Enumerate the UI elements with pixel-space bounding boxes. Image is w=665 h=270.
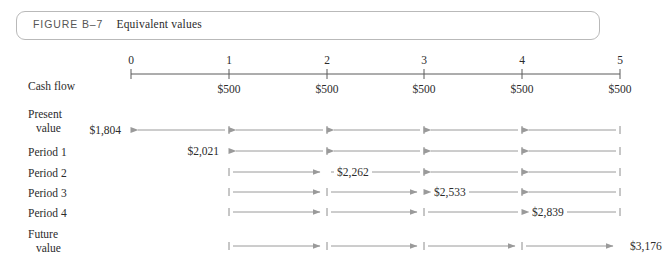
arrow-row-period-3 (229, 188, 620, 196)
arrow-row-future-value (229, 242, 613, 250)
cash-flow-value-period-3: $500 (413, 83, 436, 95)
axis-tick-label-3: 3 (421, 54, 427, 66)
value-label-period-4: $2,839 (529, 206, 567, 218)
row-label-period-4: Period 4 (28, 207, 67, 219)
value-label-future-value: $3,176 (627, 240, 665, 252)
row-label-cash-flow: Cash flow (28, 80, 75, 92)
cash-flow-value-period-1: $500 (218, 83, 241, 95)
value-label-period-1: $2,021 (184, 145, 222, 157)
row-label-future-value-line-1: value (36, 242, 61, 254)
row-label-period-1: Period 1 (28, 146, 67, 158)
value-label-present-value: $1,804 (86, 124, 124, 136)
axis-group (131, 69, 620, 79)
row-label-period-2: Period 2 (28, 167, 67, 179)
axis-tick-label-4: 4 (519, 54, 525, 66)
axis-tick-label-5: 5 (617, 54, 623, 66)
row-label-future-value-line-0: Future (28, 228, 58, 240)
axis-tick-label-0: 0 (128, 54, 134, 66)
cash-flow-value-period-2: $500 (316, 83, 339, 95)
axis-tick-label-1: 1 (226, 54, 232, 66)
arrow-row-period-1 (236, 147, 620, 155)
axis-tick-label-2: 2 (324, 54, 330, 66)
value-label-period-3: $2,533 (431, 186, 469, 198)
row-label-present-value-line-1: value (36, 122, 61, 134)
arrow-row-period-2 (229, 168, 620, 176)
value-label-period-2: $2,262 (334, 166, 372, 178)
cash-flow-value-period-4: $500 (511, 83, 534, 95)
row-label-period-3: Period 3 (28, 187, 67, 199)
row-label-present-value-line-0: Present (28, 108, 62, 120)
arrow-row-present-value (138, 126, 620, 134)
cash-flow-value-period-5: $500 (609, 83, 632, 95)
